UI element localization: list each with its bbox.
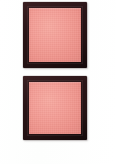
image-caption bbox=[0, 0, 1, 1]
compact-case-bottom bbox=[23, 76, 87, 140]
compact-case-top bbox=[23, 2, 87, 68]
blush-swatch-bottom-label bbox=[23, 140, 24, 141]
powder-pan-top bbox=[29, 8, 81, 62]
powder-pan-bottom bbox=[29, 82, 81, 134]
blush-swatch-bottom[interactable] bbox=[23, 76, 87, 140]
product-image bbox=[0, 0, 116, 164]
blush-swatch-top[interactable] bbox=[23, 2, 87, 68]
blush-swatch-top-label bbox=[23, 68, 24, 69]
